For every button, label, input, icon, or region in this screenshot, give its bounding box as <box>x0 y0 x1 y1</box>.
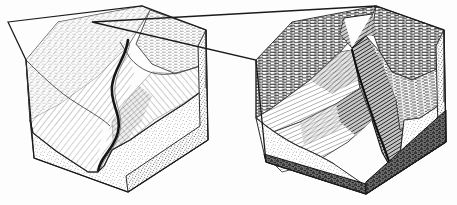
figure-canvas <box>0 0 457 205</box>
block-diagram-figure: Two geological block diagrams of a strea… <box>0 0 457 205</box>
